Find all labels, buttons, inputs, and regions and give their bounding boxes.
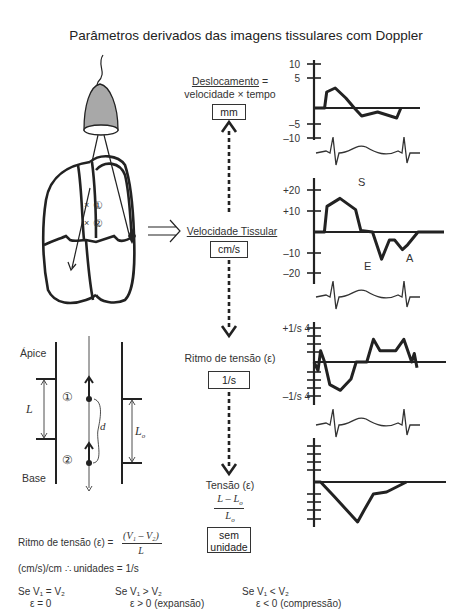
chart-3-tick-label: +1/s 4: [282, 323, 310, 334]
chart-1-tick-label: –5: [289, 119, 301, 130]
ecg-trace-2: [316, 281, 420, 309]
chart-4-series-line: [314, 482, 406, 522]
chart-2-tick-label: –20: [283, 268, 300, 279]
formula-fraction-bar: [122, 543, 162, 544]
ecg-trace-3: [316, 409, 420, 437]
ecg-trace-1: [316, 137, 420, 165]
heart-marker-2: ②: [93, 217, 103, 230]
formula-denominator: L: [120, 545, 162, 556]
chart-3-tick-label: –1/s 4: [283, 391, 311, 402]
arrow-down-icon: [222, 326, 236, 336]
case-less-result: ε < 0 (compressão): [256, 598, 341, 609]
svg-text:×: ×: [84, 200, 89, 210]
ultrasound-probe-icon: [84, 84, 118, 130]
segment-marker-2: ②: [62, 453, 73, 467]
chart-annotation-A: A: [406, 252, 414, 264]
chart-3-series-line: [314, 339, 417, 390]
strain-rate-unit-box: 1/s: [208, 371, 250, 389]
segment-diagram: [36, 336, 142, 491]
case-greater-condition: Se V₁ > V₂: [115, 586, 162, 597]
charts-group: 105–5–10+20+10–10–20SEA+1/s 4–1/s 4: [282, 59, 446, 527]
strain-fraction-bar: [214, 508, 244, 509]
chart-1-series-line: [314, 88, 401, 118]
case-less-condition: Se V₁ < V₂: [242, 586, 289, 597]
apex-label: Ápice: [20, 347, 46, 359]
strain-denominator: Lo: [200, 510, 260, 524]
strain-rate-label: Ritmo de tensão (ε): [178, 352, 282, 364]
arrow-up-icon: [222, 122, 236, 132]
chart-annotation-E: E: [364, 260, 371, 272]
formula-numerator: (V₁ – V₂): [120, 530, 162, 541]
displacement-label: Deslocamento =: [190, 75, 270, 87]
case-equal-result: ε = 0: [30, 598, 51, 609]
L-label: L: [26, 402, 33, 417]
chart-2-tick-label: +10: [283, 206, 300, 217]
chart-2-tick-label: +20: [283, 185, 300, 196]
chart-1-tick-label: –10: [283, 133, 300, 144]
case-greater-result: ε > 0 (expansão): [130, 598, 204, 609]
d-label: d: [100, 420, 106, 432]
L0-label: Lo: [135, 424, 145, 440]
strain-numerator: L – Lo: [200, 493, 260, 507]
strain-label: Tensão (ε): [190, 479, 270, 491]
displacement-formula: velocidade × tempo: [180, 88, 280, 100]
chart-annotation-S: S: [358, 176, 365, 188]
velocity-unit-box: cm/s: [210, 241, 248, 258]
strain-unit-box: semunidade: [207, 527, 251, 553]
case-equal-condition: Se V₁ = V₂: [18, 586, 65, 597]
chart-1-tick-label: 10: [289, 59, 301, 70]
base-label: Base: [22, 472, 46, 484]
chart-1-tick-label: 5: [294, 73, 300, 84]
svg-text:×: ×: [84, 218, 89, 228]
chart-2-series-line: [314, 198, 444, 259]
double-arrow-icon: [148, 220, 180, 242]
units-line: (cm/s)/cm ∴ unidades = 1/s: [18, 563, 139, 574]
heart-marker-1: ①: [93, 199, 103, 212]
displacement-unit-box: mm: [212, 104, 246, 120]
chart-2-tick-label: –10: [283, 248, 300, 259]
heart-icon: [43, 156, 134, 303]
segment-marker-1: ①: [62, 390, 73, 404]
velocity-label: Velocidade Tissular: [182, 225, 282, 237]
strain-rate-formula-prefix: Ritmo de tensão (ε) =: [18, 537, 113, 548]
